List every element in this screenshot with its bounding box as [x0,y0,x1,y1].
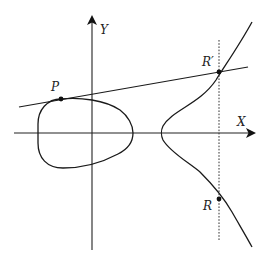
elliptic-curve-diagram: Y X P R′ R [0,0,270,263]
label-x-axis: X [236,115,246,129]
point-r-prime [217,70,222,75]
label-p: P [50,80,60,94]
label-r-prime: R′ [201,55,214,69]
label-r: R [202,199,212,213]
point-r [217,197,222,202]
point-p [59,97,64,102]
label-y-axis: Y [100,23,109,37]
